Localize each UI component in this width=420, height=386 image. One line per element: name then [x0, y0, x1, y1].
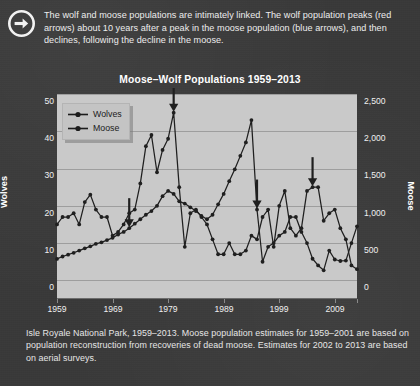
x-tick-mark — [57, 299, 58, 303]
y-tick-right-1000: 1,000 — [364, 208, 386, 218]
x-tick-1999: 1999 — [269, 304, 288, 314]
y-axis-title-right: Moose — [406, 181, 416, 210]
wolf-peak-arrow — [308, 157, 317, 186]
figure-panel: The wolf and moose populations are intim… — [0, 0, 420, 386]
callout: The wolf and moose populations are intim… — [8, 9, 412, 47]
x-tick-mark — [357, 299, 358, 303]
y-tick-left-30: 30 — [44, 170, 54, 180]
callout-text: The wolf and moose populations are intim… — [44, 9, 412, 47]
moose-peak-arrow — [125, 198, 134, 227]
x-tick-mark — [279, 299, 280, 303]
legend: Wolves Moose — [62, 103, 130, 140]
x-tick-mark — [113, 299, 114, 303]
wolf-peak-arrow — [169, 88, 178, 112]
chart-figure: Wolves Moose 0 10 20 30 40 50 0 500 1,00… — [0, 88, 420, 320]
x-tick-mark — [224, 299, 225, 303]
figure-caption: Isle Royale National Park, 1959–2013. Mo… — [26, 327, 410, 364]
y-tick-left-40: 40 — [44, 133, 54, 143]
y-tick-right-2000: 2,000 — [364, 133, 386, 143]
x-tick-mark — [335, 299, 336, 303]
chart-title: Moose–Wolf Populations 1959–2013 — [0, 74, 420, 85]
callout-paragraph: The wolf and moose populations are intim… — [44, 9, 412, 47]
y-tick-left-0: 0 — [49, 282, 54, 292]
y-tick-right-0: 0 — [364, 282, 369, 292]
legend-label-wolves: Wolves — [93, 110, 122, 119]
x-tick-1989: 1989 — [214, 304, 233, 314]
y-tick-left-20: 20 — [44, 208, 54, 218]
plot-area: Wolves Moose — [57, 94, 357, 299]
y-tick-right-500: 500 — [364, 245, 378, 255]
y-tick-left-50: 50 — [44, 96, 54, 106]
x-tick-1979: 1979 — [158, 304, 177, 314]
figure-caption-text: Isle Royale National Park, 1959–2013. Mo… — [26, 327, 410, 364]
arrow-right-circle-icon — [8, 10, 35, 37]
legend-marker-icon — [68, 110, 88, 119]
y-axis-title-left: Wolves — [0, 176, 9, 208]
y-tick-right-2500: 2,500 — [364, 96, 386, 106]
x-tick-1959: 1959 — [47, 304, 66, 314]
legend-item-moose: Moose — [68, 121, 122, 135]
moose-peak-arrow — [252, 180, 261, 209]
legend-label-moose: Moose — [93, 124, 119, 133]
legend-item-wolves: Wolves — [68, 107, 122, 121]
y-tick-left-10: 10 — [44, 245, 54, 255]
legend-marker-icon — [68, 124, 88, 133]
x-tick-1969: 1969 — [103, 304, 122, 314]
x-tick-2009: 2009 — [325, 304, 344, 314]
y-tick-right-1500: 1,500 — [364, 170, 386, 180]
x-tick-mark — [168, 299, 169, 303]
